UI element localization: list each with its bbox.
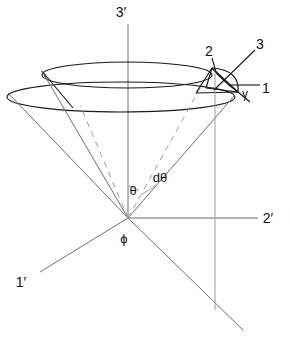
cone-solid-angle-diagram: 3′ 2′ 1′ θ dθ ϕ γ 1 2 3 (0, 0, 289, 337)
angle-label-dtheta: dθ (153, 170, 167, 185)
callout-label-2: 2 (205, 43, 213, 59)
angle-label-gamma: γ (242, 87, 248, 101)
axis-label-1p: 1′ (16, 274, 27, 290)
callout-label-3: 3 (256, 36, 264, 52)
callout-label-1: 1 (262, 80, 270, 96)
figure-background (0, 0, 289, 337)
figure-root: 3′ 2′ 1′ θ dθ ϕ γ 1 2 3 (0, 0, 289, 337)
angle-label-phi: ϕ (120, 231, 127, 246)
axis-label-3p: 3′ (116, 4, 127, 20)
angle-label-theta: θ (129, 183, 136, 198)
axis-label-2p: 2′ (263, 210, 274, 226)
